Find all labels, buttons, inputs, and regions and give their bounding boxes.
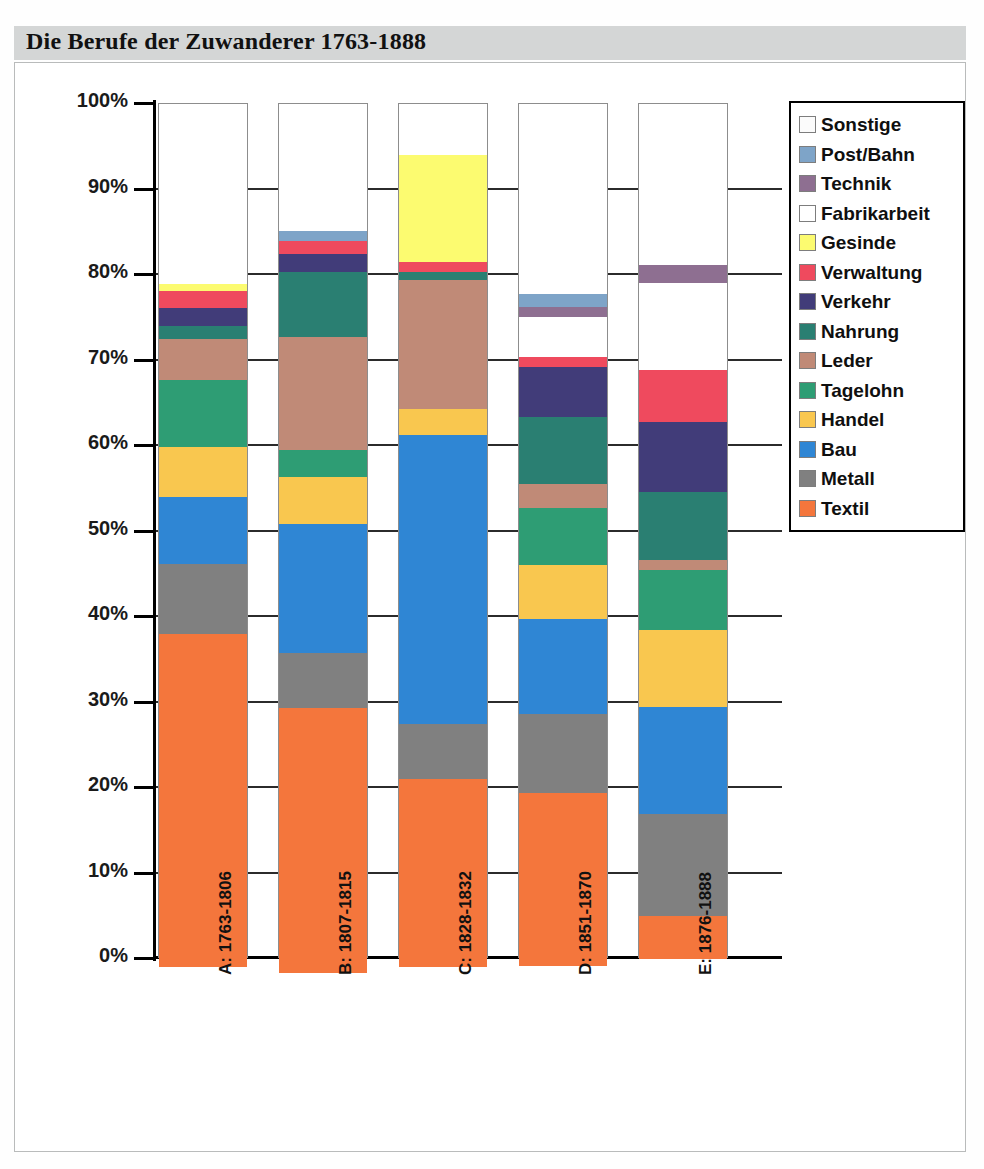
y-tick-50 (134, 530, 156, 533)
legend-item-label: Sonstige (821, 115, 901, 134)
y-tick-label-text: 0% (40, 944, 128, 967)
bar-segment-fabrikarbeit (639, 283, 727, 370)
y-tick-label: 80% (40, 260, 128, 283)
y-tick-label-text: 90% (40, 175, 128, 198)
legend-item-textil[interactable]: Textil (799, 494, 957, 524)
y-tick-label: 60% (40, 431, 128, 454)
bar-segment-bau (159, 497, 247, 564)
y-tick-label-text: 40% (40, 602, 128, 625)
x-axis-label: C: 1828-1832 (456, 735, 476, 975)
legend-swatch-icon (799, 293, 816, 310)
legend-item-gesinde[interactable]: Gesinde (799, 228, 957, 258)
bar-segment-technik (639, 265, 727, 283)
bar-segment-sonstige (159, 104, 247, 284)
y-tick-0 (134, 957, 156, 960)
y-tick-10 (134, 872, 156, 875)
x-axis-label: E: 1876-1888 (696, 735, 716, 975)
x-axis-label: D: 1851-1870 (576, 735, 596, 975)
bar-segment-fabrikarbeit (519, 317, 607, 357)
legend-swatch-icon (799, 500, 816, 517)
bar-segment-handel (279, 477, 367, 524)
legend-swatch-icon (799, 264, 816, 281)
y-tick-label: 70% (40, 346, 128, 369)
bar-segment-verwaltung (399, 262, 487, 272)
y-tick-60 (134, 444, 156, 447)
bar-segment-sonstige (279, 104, 367, 231)
bar-segment-verkehr (159, 308, 247, 326)
legend-item-leder[interactable]: Leder (799, 346, 957, 376)
legend-item-verwaltung[interactable]: Verwaltung (799, 258, 957, 288)
legend-item-post-bahn[interactable]: Post/Bahn (799, 140, 957, 170)
y-tick-label: 10% (40, 859, 128, 882)
legend-item-label: Textil (821, 499, 869, 518)
bar-segment-technik (519, 307, 607, 317)
legend-item-nahrung[interactable]: Nahrung (799, 317, 957, 347)
bar-segment-post-bahn (279, 231, 367, 241)
x-axis-label: A: 1763-1806 (216, 735, 236, 975)
bar-segment-bau (279, 524, 367, 653)
y-tick-label-text: 20% (40, 773, 128, 796)
bar-segment-verwaltung (279, 241, 367, 255)
legend-item-metall[interactable]: Metall (799, 464, 957, 494)
bar-segment-verwaltung (639, 370, 727, 422)
legend-item-label: Gesinde (821, 233, 896, 252)
legend-swatch-icon (799, 175, 816, 192)
y-tick-label: 20% (40, 773, 128, 796)
legend-item-label: Handel (821, 410, 884, 429)
y-tick-70 (134, 359, 156, 362)
bar-segment-nahrung (519, 417, 607, 484)
page-title: Die Berufe der Zuwanderer 1763-1888 (26, 28, 426, 55)
y-tick-label: 100% (40, 89, 128, 112)
bar-segment-sonstige (399, 104, 487, 155)
bar-segment-verkehr (639, 422, 727, 492)
y-tick-label-text: 70% (40, 346, 128, 369)
legend-item-fabrikarbeit[interactable]: Fabrikarbeit (799, 199, 957, 229)
bar-segment-handel (159, 447, 247, 497)
bar-segment-verwaltung (159, 291, 247, 308)
legend-item-handel[interactable]: Handel (799, 405, 957, 435)
bar-segment-leder (399, 280, 487, 409)
y-tick-90 (134, 188, 156, 191)
y-tick-label: 30% (40, 688, 128, 711)
bar-segment-verkehr (279, 254, 367, 272)
legend-item-verkehr[interactable]: Verkehr (799, 287, 957, 317)
bar-segment-handel (519, 565, 607, 619)
y-tick-label: 50% (40, 517, 128, 540)
legend-swatch-icon (799, 411, 816, 428)
bar-segment-metall (159, 564, 247, 634)
bar-segment-verkehr (519, 367, 607, 417)
legend-item-label: Technik (821, 174, 891, 193)
bar-segment-bau (399, 435, 487, 724)
y-tick-label-text: 10% (40, 859, 128, 882)
bar-segment-leder (519, 484, 607, 509)
y-tick-label-text: 50% (40, 517, 128, 540)
chart-page: Die Berufe der Zuwanderer 1763-1888 0%10… (0, 0, 984, 1169)
legend-item-label: Bau (821, 440, 857, 459)
legend-item-label: Metall (821, 469, 875, 488)
legend-swatch-icon (799, 323, 816, 340)
bar-segment-handel (399, 409, 487, 435)
legend-swatch-icon (799, 382, 816, 399)
bar-segment-handel (639, 630, 727, 707)
y-tick-80 (134, 273, 156, 276)
legend-item-tagelohn[interactable]: Tagelohn (799, 376, 957, 406)
bar-segment-bau (519, 619, 607, 715)
y-tick-20 (134, 786, 156, 789)
bar-segment-nahrung (639, 492, 727, 560)
legend-item-sonstige[interactable]: Sonstige (799, 110, 957, 140)
legend-item-label: Fabrikarbeit (821, 204, 930, 223)
y-tick-label-text: 60% (40, 431, 128, 454)
bar-segment-sonstige (639, 104, 727, 265)
legend-item-label: Leder (821, 351, 873, 370)
legend-swatch-icon (799, 441, 816, 458)
legend-swatch-icon (799, 470, 816, 487)
legend: SonstigePost/BahnTechnikFabrikarbeitGesi… (789, 101, 965, 532)
legend-item-label: Post/Bahn (821, 145, 915, 164)
y-tick-label: 40% (40, 602, 128, 625)
legend-item-technik[interactable]: Technik (799, 169, 957, 199)
y-tick-label: 0% (40, 944, 128, 967)
y-tick-30 (134, 701, 156, 704)
legend-item-bau[interactable]: Bau (799, 435, 957, 465)
bar-segment-sonstige (519, 104, 607, 294)
bar-segment-nahrung (159, 326, 247, 339)
